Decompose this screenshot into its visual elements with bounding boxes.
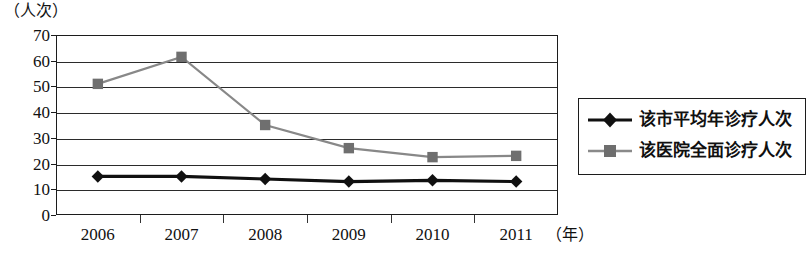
diamond-marker-icon bbox=[587, 109, 633, 131]
data-point-square bbox=[344, 143, 354, 153]
data-point-diamond bbox=[259, 173, 271, 185]
data-point-square bbox=[93, 79, 103, 89]
square-marker-icon bbox=[587, 140, 633, 162]
data-point-diamond bbox=[510, 175, 522, 187]
legend-item-hospital-total: 该医院全面诊疗人次 bbox=[587, 138, 792, 164]
data-point-square bbox=[427, 152, 437, 162]
line-chart: （人次） 706050403020100 2006200720082009201… bbox=[0, 0, 811, 255]
x-axis-tick-mark bbox=[391, 215, 392, 223]
data-point-square bbox=[260, 120, 270, 130]
y-axis-tick-label: 30 bbox=[4, 130, 50, 147]
x-axis-tick-label: 2009 bbox=[332, 225, 366, 245]
x-axis-tick-label: 2011 bbox=[499, 225, 532, 245]
series-line bbox=[98, 57, 516, 157]
data-point-square bbox=[176, 52, 186, 62]
legend-label-city-average: 该市平均年诊疗人次 bbox=[639, 109, 792, 131]
data-point-diamond bbox=[343, 175, 355, 187]
y-axis-tick-mark bbox=[51, 215, 56, 216]
y-axis-tick-label: 10 bbox=[4, 181, 50, 198]
y-axis-tick-label: 20 bbox=[4, 156, 50, 173]
x-axis-tick-label: 2007 bbox=[165, 225, 199, 245]
legend-item-city-average: 该市平均年诊疗人次 bbox=[587, 107, 792, 133]
x-axis-tick-mark bbox=[140, 215, 141, 223]
y-axis-tick-label: 0 bbox=[4, 207, 50, 224]
data-point-diamond bbox=[426, 174, 438, 186]
y-axis-tick-label: 40 bbox=[4, 104, 50, 121]
legend-label-hospital-total: 该医院全面诊疗人次 bbox=[639, 140, 792, 162]
x-axis-tick-label: 2008 bbox=[248, 225, 282, 245]
y-axis-tick-label: 60 bbox=[4, 53, 50, 70]
y-axis-tick-label: 50 bbox=[4, 78, 50, 95]
x-axis-tick-mark bbox=[223, 215, 224, 223]
y-axis-tick-label: 70 bbox=[4, 27, 50, 44]
x-axis-tick-label: 2006 bbox=[81, 225, 115, 245]
x-axis-tick-mark bbox=[474, 215, 475, 223]
y-axis-tick-labels: 706050403020100 bbox=[0, 35, 50, 215]
legend: 该市平均年诊疗人次 该医院全面诊疗人次 bbox=[578, 98, 806, 175]
x-axis-tick-mark bbox=[307, 215, 308, 223]
x-axis-unit-caption: （年） bbox=[546, 225, 594, 245]
series-line bbox=[98, 176, 516, 181]
y-axis-unit-caption: （人次） bbox=[4, 1, 68, 21]
data-point-diamond bbox=[92, 170, 104, 182]
data-point-diamond bbox=[175, 170, 187, 182]
x-axis-tick-label: 2010 bbox=[416, 225, 450, 245]
data-series-layer bbox=[56, 35, 558, 215]
data-point-square bbox=[511, 151, 521, 161]
